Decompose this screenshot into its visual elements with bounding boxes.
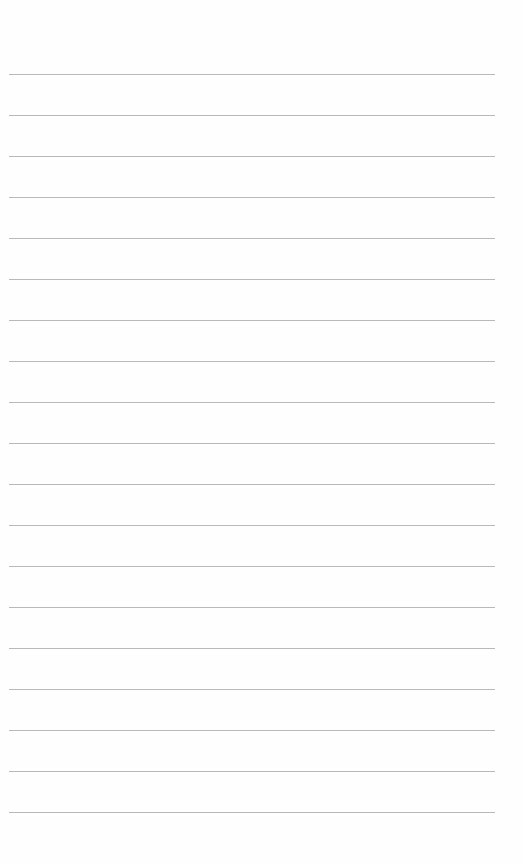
ruled-line [9,566,495,567]
ruled-line [9,320,495,321]
ruled-line [9,156,495,157]
ruled-line [9,279,495,280]
ruled-line [9,74,495,75]
ruled-line [9,484,495,485]
ruled-line [9,525,495,526]
ruled-line [9,361,495,362]
ruled-line [9,812,495,813]
ruled-line [9,115,495,116]
ruled-line [9,197,495,198]
ruled-line [9,689,495,690]
lined-paper-page [0,0,523,864]
ruled-line [9,443,495,444]
ruled-line [9,238,495,239]
ruled-line [9,402,495,403]
ruled-line [9,607,495,608]
ruled-line [9,771,495,772]
ruled-line [9,648,495,649]
ruled-line [9,730,495,731]
